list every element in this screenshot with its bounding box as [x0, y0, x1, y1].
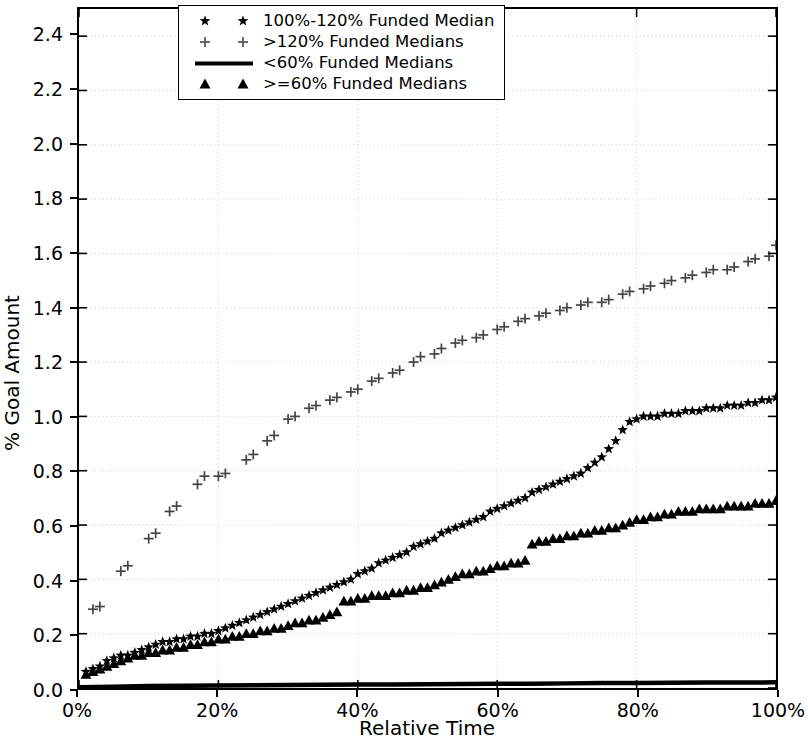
data-point — [583, 462, 594, 472]
series-line — [79, 682, 776, 687]
y-tick-label: 2.0 — [33, 133, 63, 155]
series-2 — [79, 682, 776, 687]
legend-label: <60% Funded Medians — [261, 53, 453, 72]
legend-entry: 100%-120% Funded Median — [187, 10, 494, 31]
y-tick-label: 0.8 — [33, 460, 63, 482]
y-tick-label: 0.6 — [33, 515, 63, 537]
y-tick-mark — [70, 307, 77, 309]
data-point — [241, 455, 251, 465]
data-point — [409, 357, 419, 367]
y-axis-label-host: % Goal Amount — [26, 0, 27, 745]
legend-label: 100%-120% Funded Median — [261, 11, 494, 30]
data-point — [366, 563, 377, 573]
legend-label: >120% Funded Medians — [261, 32, 464, 51]
data-point — [144, 534, 154, 544]
data-point — [165, 506, 175, 516]
x-tick-mark — [497, 690, 499, 697]
y-tick-label: 2.4 — [33, 23, 63, 45]
data-point — [116, 566, 126, 576]
data-point — [248, 449, 258, 459]
y-tick-label: 0.0 — [33, 679, 63, 701]
x-tick-label: 0% — [62, 699, 92, 721]
y-axis-label: % Goal Amount — [0, 295, 24, 451]
x-tick-label: 100% — [751, 699, 805, 721]
x-tick-mark — [76, 690, 78, 697]
y-tick-mark — [70, 470, 77, 472]
data-point — [771, 240, 776, 250]
y-tick-label: 0.2 — [33, 624, 63, 646]
data-point — [262, 436, 272, 446]
x-axis-label: Relative Time — [359, 716, 495, 740]
data-point — [199, 471, 209, 481]
y-tick-mark — [70, 197, 77, 199]
legend-marker-triangle-icon — [187, 74, 261, 94]
y-tick-mark — [70, 361, 77, 363]
legend-marker-plus-icon — [187, 32, 261, 52]
legend-entry: >120% Funded Medians — [187, 31, 494, 52]
series-1 — [88, 240, 776, 614]
y-tick-mark — [70, 580, 77, 582]
data-point — [520, 555, 531, 565]
series-3 — [80, 495, 776, 679]
data-point — [123, 561, 133, 571]
data-point — [429, 349, 439, 359]
y-tick-mark — [70, 416, 77, 418]
y-tick-mark — [70, 143, 77, 145]
y-tick-mark — [70, 525, 77, 527]
data-point — [401, 547, 412, 557]
data-point — [238, 37, 248, 47]
data-point — [436, 344, 446, 354]
data-point — [610, 435, 621, 445]
data-point — [238, 15, 249, 25]
y-tick-label: 1.6 — [33, 242, 63, 264]
data-point — [199, 78, 210, 88]
data-point — [237, 78, 248, 88]
x-tick-mark — [356, 690, 358, 697]
data-point — [478, 511, 489, 521]
y-tick-label: 0.4 — [33, 570, 63, 592]
x-tick-label: 80% — [617, 699, 659, 721]
x-tick-mark — [637, 690, 639, 697]
legend-entry: <60% Funded Medians — [187, 52, 494, 73]
data-point — [520, 492, 531, 502]
data-point — [617, 424, 628, 434]
data-point — [596, 452, 607, 462]
data-point — [269, 430, 279, 440]
chart-legend: 100%-120% Funded Median>120% Funded Medi… — [178, 5, 505, 100]
data-point — [589, 457, 600, 467]
legend-label: >=60% Funded Medians — [261, 74, 467, 93]
data-point — [429, 533, 440, 543]
data-point — [151, 528, 161, 538]
data-point — [200, 37, 210, 47]
y-tick-label: 1.8 — [33, 187, 63, 209]
plot-canvas — [79, 9, 776, 688]
x-tick-label: 20% — [196, 699, 238, 721]
data-point — [603, 443, 614, 453]
y-tick-label: 1.2 — [33, 351, 63, 373]
data-point — [200, 15, 211, 25]
data-point — [416, 352, 426, 362]
plot-area — [77, 7, 778, 690]
x-tick-mark — [216, 690, 218, 697]
y-tick-mark — [70, 33, 77, 35]
chart-figure: % Goal Amount 0.00.20.40.60.81.01.21.41.… — [0, 0, 808, 745]
y-tick-mark — [70, 88, 77, 90]
y-tick-mark — [70, 252, 77, 254]
y-tick-label: 1.0 — [33, 406, 63, 428]
legend-marker-line-icon — [187, 53, 261, 73]
data-point — [172, 501, 182, 511]
y-tick-mark — [70, 634, 77, 636]
legend-entry: >=60% Funded Medians — [187, 73, 494, 94]
legend-marker-star-icon — [187, 11, 261, 31]
data-point — [331, 607, 342, 617]
data-point — [193, 479, 203, 489]
x-tick-mark — [777, 690, 779, 697]
y-tick-label: 2.2 — [33, 78, 63, 100]
data-point — [346, 574, 357, 584]
y-tick-label: 1.4 — [33, 297, 63, 319]
data-point — [576, 468, 587, 478]
